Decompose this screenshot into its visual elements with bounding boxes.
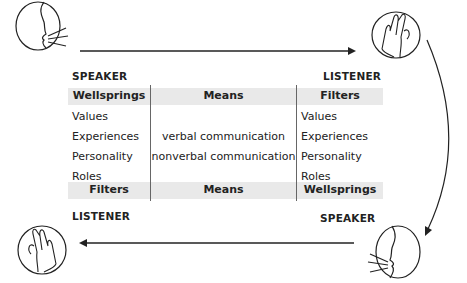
footer-means: Means xyxy=(151,183,296,197)
top-listener-label: LISTENER xyxy=(323,70,381,82)
footer-wellsprings: Wellsprings xyxy=(297,183,383,197)
left-item-experiences: Experiences xyxy=(72,130,139,144)
bottom-arrow-icon xyxy=(79,239,354,247)
listener-ear-icon xyxy=(372,12,420,58)
speaker-head-icon xyxy=(16,2,68,50)
listener-ear-icon xyxy=(18,226,66,274)
top-speaker-label: SPEAKER xyxy=(72,70,127,82)
top-arrow-icon xyxy=(80,47,356,55)
right-item-experiences: Experiences xyxy=(301,130,368,144)
bottom-listener-label: LISTENER xyxy=(72,210,130,222)
left-item-roles: Roles xyxy=(72,170,101,184)
right-item-personality: Personality xyxy=(301,150,362,164)
header-wellsprings: Wellsprings xyxy=(68,89,150,103)
footer-filters: Filters xyxy=(68,183,150,197)
bottom-speaker-label: SPEAKER xyxy=(320,212,375,224)
means-nonverbal: nonverbal communication xyxy=(151,150,296,164)
header-filters: Filters xyxy=(297,89,383,103)
left-item-values: Values xyxy=(72,110,108,124)
right-item-roles: Roles xyxy=(301,170,330,184)
curved-arrow-icon xyxy=(425,40,449,236)
right-item-values: Values xyxy=(301,110,337,124)
header-means: Means xyxy=(151,89,296,103)
speaker-head-icon xyxy=(368,226,420,278)
left-item-personality: Personality xyxy=(72,150,133,164)
means-verbal: verbal communication xyxy=(151,130,296,144)
